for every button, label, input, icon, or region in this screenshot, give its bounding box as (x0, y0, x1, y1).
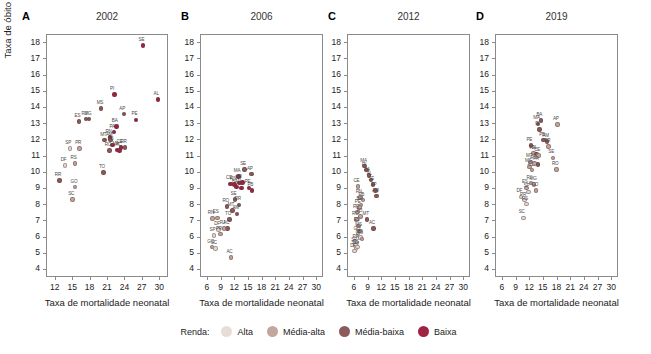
y-tick-mark (492, 156, 495, 157)
data-point-label: PE (526, 137, 532, 142)
y-tick-label: 13 (469, 118, 489, 128)
legend-swatch-icon (221, 326, 232, 337)
data-point (554, 167, 559, 172)
x-tick-mark (598, 277, 599, 280)
data-point-label: RO (552, 161, 559, 166)
data-point-label: SE (548, 149, 554, 154)
data-point (536, 162, 541, 167)
legend-label: Média-baixa (355, 327, 404, 337)
y-tick-mark (492, 172, 495, 173)
y-tick-mark (492, 75, 495, 76)
y-tick-label: 8 (469, 199, 489, 209)
y-tick-mark (492, 220, 495, 221)
data-point (534, 188, 539, 193)
legend: Renda: AltaMédia-altaMédia-baixaBaixa (0, 326, 651, 337)
x-tick-mark (611, 277, 612, 280)
y-tick-label: 7 (469, 215, 489, 225)
legend-label: Alta (237, 327, 253, 337)
y-tick-mark (492, 123, 495, 124)
y-tick-mark (492, 91, 495, 92)
legend-item: Média-alta (267, 326, 325, 337)
y-tick-mark (492, 253, 495, 254)
y-tick-mark (492, 237, 495, 238)
x-tick-mark (516, 277, 517, 280)
legend-item: Alta (221, 326, 253, 337)
x-tick-mark (557, 277, 558, 280)
y-tick-label: 10 (469, 166, 489, 176)
y-tick-mark (492, 139, 495, 140)
y-tick-label: 12 (469, 134, 489, 144)
data-point (555, 122, 560, 127)
data-point-label: AP (553, 116, 559, 121)
y-tick-label: 9 (469, 182, 489, 192)
y-tick-label: 18 (469, 37, 489, 47)
data-point-label: RR (544, 138, 550, 143)
y-tick-label: 11 (469, 150, 489, 160)
legend-swatch-icon (339, 326, 350, 337)
legend-title: Renda: (180, 327, 209, 337)
data-point-label: SC (519, 209, 525, 214)
data-point-label: AC (527, 162, 533, 167)
data-point-label: CE (534, 147, 540, 152)
x-tick-mark (584, 277, 585, 280)
y-tick-mark (492, 107, 495, 108)
legend-item: Média-baixa (339, 326, 404, 337)
data-point-label: PA (533, 156, 538, 161)
data-point-label: MA (533, 115, 540, 120)
data-point (521, 216, 526, 221)
panel-title-d: 2019 (495, 11, 618, 22)
y-tick-label: 4 (469, 263, 489, 273)
data-point-label: GO (532, 182, 539, 187)
y-tick-label: 16 (469, 69, 489, 79)
legend-item: Baixa (418, 326, 457, 337)
legend-swatch-icon (267, 326, 278, 337)
data-point-label: PI (535, 121, 539, 126)
data-point (524, 202, 529, 207)
y-tick-label: 6 (469, 231, 489, 241)
legend-label: Baixa (434, 327, 457, 337)
y-tick-label: 5 (469, 247, 489, 257)
data-point-label: SP (524, 183, 530, 188)
x-tick-mark (502, 277, 503, 280)
x-tick-mark (529, 277, 530, 280)
legend-label: Média-alta (283, 327, 325, 337)
x-tick-label: 30 (601, 282, 621, 292)
data-point (546, 144, 551, 149)
plot-frame-d (495, 34, 618, 277)
x-axis-title-d: Taxa de mortalidade neonatal (483, 297, 630, 308)
x-tick-mark (543, 277, 544, 280)
y-tick-mark (492, 269, 495, 270)
y-tick-mark (492, 204, 495, 205)
y-tick-label: 14 (469, 101, 489, 111)
data-point (526, 190, 531, 195)
y-tick-label: 17 (469, 53, 489, 63)
y-tick-mark (492, 42, 495, 43)
legend-swatch-icon (418, 326, 429, 337)
y-tick-label: 15 (469, 85, 489, 95)
data-point-label: MG (530, 176, 537, 181)
figure-panel-grid: Taxa de óbito fetal A2002456789101112131… (0, 0, 651, 354)
panel-d: D201945678910111213141516171869121518212… (0, 0, 651, 318)
y-tick-mark (492, 188, 495, 189)
panel-letter-d: D (476, 10, 484, 22)
data-point-label: RS (522, 196, 528, 201)
x-tick-mark (570, 277, 571, 280)
y-tick-mark (492, 58, 495, 59)
